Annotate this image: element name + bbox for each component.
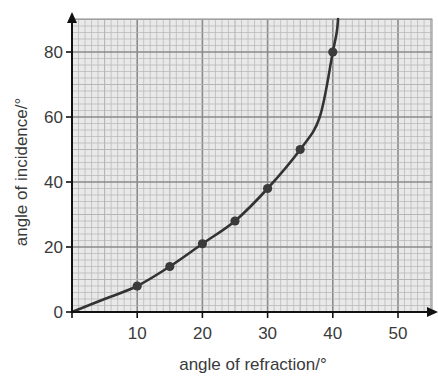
- data-point: [328, 47, 337, 56]
- data-point: [198, 239, 207, 248]
- data-point: [165, 262, 174, 271]
- y-tick-label: 20: [44, 238, 63, 257]
- x-axis-title: angle of refraction/°: [179, 355, 327, 374]
- data-point: [296, 145, 305, 154]
- data-point: [263, 184, 272, 193]
- x-tick-label: 30: [258, 324, 277, 343]
- y-tick-label: 0: [54, 303, 63, 322]
- x-tick-label: 40: [323, 324, 342, 343]
- y-tick-label: 40: [44, 173, 63, 192]
- y-tick-label: 80: [44, 43, 63, 62]
- refraction-chart: 1020304050020406080 angle of refraction/…: [0, 0, 438, 385]
- data-point: [230, 216, 239, 225]
- graph-paper-grid: [72, 19, 432, 312]
- data-point: [133, 281, 142, 290]
- y-axis-title: angle of incidence/°: [12, 98, 31, 247]
- y-tick-label: 60: [44, 108, 63, 127]
- x-tick-label: 20: [193, 324, 212, 343]
- x-tick-label: 10: [128, 324, 147, 343]
- x-tick-label: 50: [389, 324, 408, 343]
